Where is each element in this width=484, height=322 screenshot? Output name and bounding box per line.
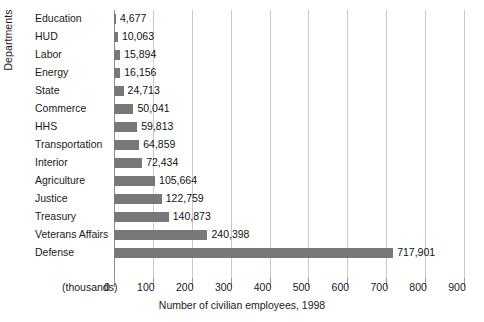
- category-label: HUD: [35, 30, 58, 42]
- bar-value-label: 16,156: [124, 66, 156, 78]
- bar-row: 15,894: [114, 46, 464, 64]
- bar-value-label: 140,873: [173, 210, 211, 222]
- x-tick-label: 100: [137, 281, 155, 293]
- bar-value-label: 240,398: [211, 228, 249, 240]
- category-label: Justice: [35, 192, 68, 204]
- bar: [114, 68, 120, 78]
- y-axis-title-label: Departments: [2, 0, 14, 100]
- bar-value-label: 15,894: [124, 48, 156, 60]
- bar: [114, 140, 139, 150]
- bar-value-label: 72,434: [146, 156, 178, 168]
- category-label: Labor: [35, 48, 62, 60]
- category-label: Interior: [35, 156, 68, 168]
- x-tick-label: 200: [176, 281, 194, 293]
- bar-chart: Departments EducationHUDLaborEnergyState…: [0, 0, 484, 322]
- bar-row: 59,813: [114, 118, 464, 136]
- bar-row: 24,713: [114, 82, 464, 100]
- y-axis-title: Departments: [2, 0, 14, 100]
- bar-row: 64,859: [114, 136, 464, 154]
- category-label: Treasury: [35, 210, 76, 222]
- bar-row: 122,759: [114, 190, 464, 208]
- x-tick-label: 800: [409, 281, 427, 293]
- bar-row: 10,063: [114, 28, 464, 46]
- bar: [114, 230, 207, 240]
- bar-value-label: 24,713: [128, 84, 160, 96]
- category-label: Education: [35, 12, 82, 24]
- x-tick-label: 300: [215, 281, 233, 293]
- units-note: (thousands): [62, 281, 117, 293]
- x-tick-label: 500: [293, 281, 311, 293]
- bar: [114, 248, 393, 258]
- bar-row: 240,398: [114, 226, 464, 244]
- category-label: Commerce: [35, 102, 86, 114]
- x-tick-label: 900: [448, 281, 466, 293]
- bar-row: 4,677: [114, 10, 464, 28]
- bar-row: 105,664: [114, 172, 464, 190]
- x-tick-label: 700: [370, 281, 388, 293]
- bar: [114, 122, 137, 132]
- bar: [114, 32, 118, 42]
- x-axis-title: Number of civilian employees, 1998: [0, 299, 484, 311]
- bar-value-label: 50,041: [137, 102, 169, 114]
- bar-value-label: 105,664: [159, 174, 197, 186]
- x-tick-label: 400: [254, 281, 272, 293]
- bar: [114, 50, 120, 60]
- bar-value-label: 10,063: [122, 30, 154, 42]
- bar-row: 717,901: [114, 244, 464, 262]
- bar-value-label: 64,859: [143, 138, 175, 150]
- category-label: Veterans Affairs: [35, 228, 108, 240]
- bar-row: 140,873: [114, 208, 464, 226]
- bar: [114, 158, 142, 168]
- category-label: State: [35, 84, 60, 96]
- bar-value-label: 4,677: [120, 12, 146, 24]
- bar: [114, 194, 162, 204]
- gridline-900: [464, 10, 465, 278]
- category-label: Defense: [35, 246, 74, 258]
- bar-row: 72,434: [114, 154, 464, 172]
- category-label: HHS: [35, 120, 57, 132]
- category-label: Agriculture: [35, 174, 85, 186]
- bar-row: 50,041: [114, 100, 464, 118]
- bar: [114, 104, 133, 114]
- bar-value-label: 59,813: [141, 120, 173, 132]
- bar: [114, 86, 124, 96]
- x-tick-label: 600: [332, 281, 350, 293]
- bar: [114, 14, 116, 24]
- category-label: Energy: [35, 66, 68, 78]
- plot-area: 4,67710,06315,89416,15624,71350,04159,81…: [114, 10, 464, 278]
- bar-value-label: 122,759: [166, 192, 204, 204]
- bar: [114, 176, 155, 186]
- bar-row: 16,156: [114, 64, 464, 82]
- bar: [114, 212, 169, 222]
- bar-value-label: 717,901: [397, 246, 435, 258]
- category-label: Transportation: [35, 138, 102, 150]
